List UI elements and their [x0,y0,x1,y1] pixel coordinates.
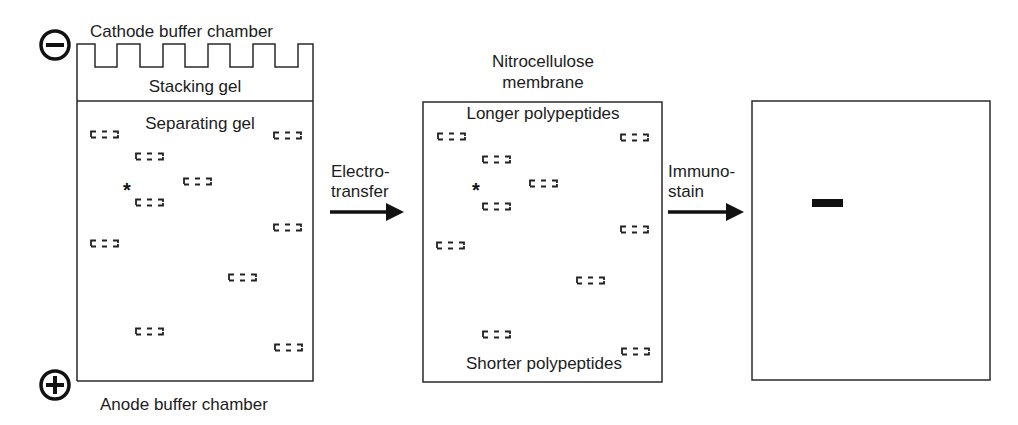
separating-gel-label: Separating gel [145,114,255,134]
anode-plus-icon [41,371,69,399]
cathode-minus-icon [41,31,69,59]
protein-band [90,234,119,243]
shorter-polypeptides-label: Shorter polypeptides [466,354,622,374]
protein-band [90,125,119,134]
protein-band [273,126,302,135]
anode-label: Anode buffer chamber [100,395,268,415]
immunostain-label-line1: Immuno- [668,162,735,182]
membrane-target-marker: * [472,180,480,200]
protein-band [183,172,212,181]
protein-band [135,193,164,202]
protein-band [482,197,511,206]
protein-band [621,342,650,351]
membrane-title-line1: Nitrocellulose [492,52,594,72]
immunostain-label-line2: stain [668,182,704,202]
protein-band [482,325,511,334]
gel-target-marker: * [123,180,131,200]
electrotransfer-arrow-icon [330,203,404,221]
protein-band [135,322,164,331]
protein-band [228,268,257,277]
immunostained-membrane-box [752,101,990,380]
western-blot-diagram: Cathode buffer chamber Stacking gel Sepa… [0,0,1018,425]
protein-band [620,220,649,229]
protein-band [620,128,649,137]
immunostain-arrow-icon [668,203,744,221]
protein-band [273,218,302,227]
protein-band [576,271,605,280]
membrane-title-line2: membrane [502,73,583,93]
stacking-gel-label: Stacking gel [149,77,242,97]
stained-band [812,199,843,207]
protein-band [274,338,303,347]
electrotransfer-label-line1: Electro- [331,162,390,182]
protein-band [436,236,465,245]
longer-polypeptides-label: Longer polypeptides [466,104,619,124]
protein-band [437,127,466,136]
electrotransfer-label-line2: transfer [331,182,389,202]
protein-band [529,174,558,183]
protein-band [482,150,511,159]
cathode-label: Cathode buffer chamber [90,22,273,42]
protein-band [135,147,164,156]
